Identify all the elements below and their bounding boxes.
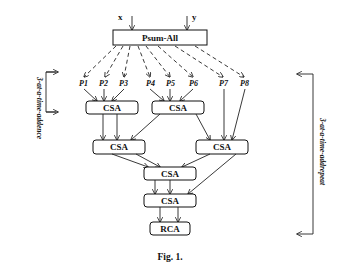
svg-text:CSA: CSA <box>103 103 122 113</box>
input-y: y <box>187 12 197 30</box>
svg-text:CSA: CSA <box>169 103 188 113</box>
svg-text:CSA: CSA <box>110 142 129 152</box>
csa-to-rca-arrows <box>160 207 178 222</box>
input-x: x <box>118 12 132 30</box>
p5-label: P5 <box>166 79 175 88</box>
csa-3: CSA <box>144 167 196 180</box>
partial-product-labels: P1 P2 P3 P4 P5 P6 P7 P8 <box>79 79 249 88</box>
psum-all-block: Psum-All <box>113 30 207 45</box>
svg-text:CSA: CSA <box>161 169 180 179</box>
p3-label: P3 <box>119 79 128 88</box>
right-bracket: 3-at-a-time-addrepeat <box>297 74 327 234</box>
figure-caption: Fig. 1. <box>157 252 182 262</box>
right-bracket-label: 3-at-a-time-addrepeat <box>318 117 327 186</box>
left-bracket-label: 3-at-a-time-addence <box>35 76 44 140</box>
svg-text:RCA: RCA <box>160 224 180 234</box>
multiplier-architecture-diagram: x y Psum-All P1 P2 P3 P4 P5 P6 P7 P8 <box>0 0 340 276</box>
csa-2a: CSA <box>93 140 145 154</box>
p8-label: P8 <box>240 79 249 88</box>
svg-text:y: y <box>192 12 197 22</box>
p1-label: P1 <box>79 79 88 88</box>
p4-label: P4 <box>146 79 155 88</box>
svg-text:Psum-All: Psum-All <box>142 33 178 43</box>
csa-row1-to-row2-arrows <box>103 114 210 140</box>
csa-row3-to-row4-arrows <box>155 180 170 194</box>
fanout-dashed-arrows <box>84 46 244 77</box>
left-bracket: 3-at-a-time-addence <box>35 72 58 140</box>
svg-text:x: x <box>118 12 123 22</box>
svg-text:CSA: CSA <box>213 142 232 152</box>
csa-4: CSA <box>144 194 196 207</box>
rca-block: RCA <box>150 222 190 235</box>
p6-label: P6 <box>189 79 198 88</box>
p7-label: P7 <box>219 79 229 88</box>
svg-text:CSA: CSA <box>161 196 180 206</box>
csa-1a: CSA <box>86 101 138 114</box>
csa-1b: CSA <box>152 101 204 114</box>
p2-label: P2 <box>99 79 108 88</box>
csa-2b: CSA <box>196 140 248 154</box>
